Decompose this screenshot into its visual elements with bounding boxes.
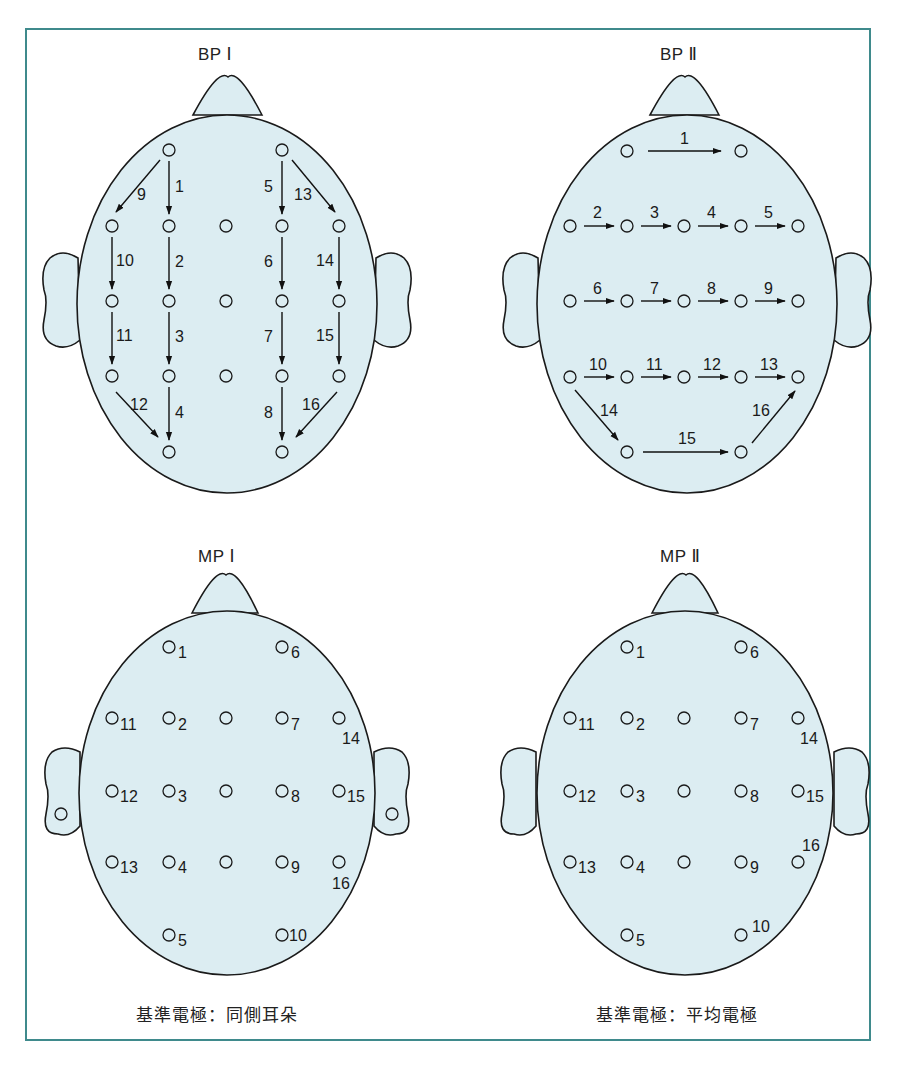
svg-text:11: 11 <box>646 356 663 373</box>
mp2-head <box>501 574 869 975</box>
svg-text:11: 11 <box>120 716 137 733</box>
svg-text:8: 8 <box>264 404 273 421</box>
svg-text:13: 13 <box>120 859 138 876</box>
svg-text:7: 7 <box>650 280 659 297</box>
svg-text:10: 10 <box>752 918 770 935</box>
svg-text:9: 9 <box>750 859 759 876</box>
svg-text:12: 12 <box>578 788 596 805</box>
svg-text:4: 4 <box>636 859 645 876</box>
svg-text:6: 6 <box>750 644 759 661</box>
svg-text:16: 16 <box>802 837 820 854</box>
svg-text:1: 1 <box>178 644 187 661</box>
left-ear-icon <box>45 748 80 835</box>
nose-icon <box>192 574 258 613</box>
svg-text:6: 6 <box>593 280 602 297</box>
svg-text:7: 7 <box>750 716 759 733</box>
svg-text:15: 15 <box>347 788 365 805</box>
svg-text:2: 2 <box>593 204 602 221</box>
svg-text:2: 2 <box>178 716 187 733</box>
svg-text:14: 14 <box>316 252 334 269</box>
svg-text:5: 5 <box>264 178 273 195</box>
svg-text:4: 4 <box>707 204 716 221</box>
left-ear-icon <box>503 253 540 347</box>
right-ear-electrode <box>386 808 398 820</box>
svg-text:3: 3 <box>175 328 184 345</box>
right-ear-icon <box>834 253 871 347</box>
left-ear-icon <box>43 253 80 347</box>
svg-text:3: 3 <box>636 788 645 805</box>
svg-text:9: 9 <box>137 186 146 203</box>
svg-text:13: 13 <box>760 356 778 373</box>
svg-text:5: 5 <box>764 204 773 221</box>
bp1-head <box>43 76 411 493</box>
svg-text:9: 9 <box>764 280 773 297</box>
svg-text:5: 5 <box>636 932 645 949</box>
svg-text:16: 16 <box>302 396 320 413</box>
svg-text:13: 13 <box>578 859 596 876</box>
eeg-montage-diagram: 1 2 3 4 5 6 7 8 9 10 11 12 13 14 15 16 <box>0 0 908 1068</box>
svg-text:4: 4 <box>178 859 187 876</box>
right-ear-icon <box>374 748 409 835</box>
svg-text:10: 10 <box>116 252 134 269</box>
left-ear-electrode <box>55 808 67 820</box>
svg-text:7: 7 <box>264 328 273 345</box>
svg-text:9: 9 <box>291 859 300 876</box>
mp1-head <box>45 574 409 975</box>
svg-text:12: 12 <box>120 788 138 805</box>
svg-text:8: 8 <box>291 788 300 805</box>
svg-text:8: 8 <box>750 788 759 805</box>
svg-text:14: 14 <box>600 402 618 419</box>
svg-text:15: 15 <box>316 327 334 344</box>
svg-text:15: 15 <box>806 788 824 805</box>
svg-text:11: 11 <box>116 327 133 344</box>
svg-text:10: 10 <box>589 356 607 373</box>
left-ear-icon <box>501 748 536 835</box>
nose-icon <box>650 76 719 115</box>
svg-text:2: 2 <box>175 253 184 270</box>
svg-text:6: 6 <box>291 644 300 661</box>
svg-text:7: 7 <box>291 716 300 733</box>
svg-text:1: 1 <box>175 178 184 195</box>
svg-text:1: 1 <box>636 644 645 661</box>
svg-text:4: 4 <box>175 404 184 421</box>
svg-text:16: 16 <box>332 875 350 892</box>
svg-text:3: 3 <box>650 204 659 221</box>
svg-text:14: 14 <box>342 730 360 747</box>
nose-icon <box>193 76 262 115</box>
svg-text:2: 2 <box>636 716 645 733</box>
svg-text:1: 1 <box>680 130 689 147</box>
svg-text:16: 16 <box>752 402 770 419</box>
svg-text:10: 10 <box>289 927 307 944</box>
svg-text:11: 11 <box>578 716 595 733</box>
svg-text:8: 8 <box>707 280 716 297</box>
svg-text:15: 15 <box>678 430 696 447</box>
svg-text:3: 3 <box>178 788 187 805</box>
nose-icon <box>652 574 718 613</box>
svg-text:6: 6 <box>264 253 273 270</box>
svg-text:5: 5 <box>178 932 187 949</box>
svg-text:12: 12 <box>703 356 721 373</box>
svg-text:13: 13 <box>294 186 312 203</box>
svg-text:14: 14 <box>800 730 818 747</box>
right-ear-icon <box>374 253 411 347</box>
right-ear-icon <box>834 748 869 835</box>
svg-text:12: 12 <box>130 396 148 413</box>
